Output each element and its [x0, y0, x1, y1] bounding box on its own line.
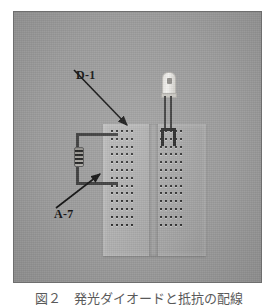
breadboard-hole[interactable]	[126, 146, 128, 148]
breadboard-hole[interactable]	[131, 161, 133, 163]
breadboard-hole[interactable]	[175, 224, 177, 226]
breadboard-hole[interactable]	[175, 169, 177, 171]
breadboard-hole[interactable]	[165, 146, 167, 148]
breadboard-hole[interactable]	[165, 185, 167, 187]
breadboard-hole[interactable]	[126, 224, 128, 226]
breadboard-hole[interactable]	[180, 224, 182, 226]
breadboard-hole[interactable]	[126, 169, 128, 171]
breadboard-hole[interactable]	[180, 216, 182, 218]
breadboard-hole[interactable]	[126, 161, 128, 163]
breadboard-hole[interactable]	[121, 224, 123, 226]
breadboard-hole[interactable]	[116, 224, 118, 226]
breadboard-hole[interactable]	[131, 138, 133, 140]
breadboard-hole[interactable]	[165, 192, 167, 194]
breadboard-hole[interactable]	[180, 130, 182, 132]
breadboard-hole[interactable]	[175, 208, 177, 210]
breadboard-hole[interactable]	[111, 224, 113, 226]
breadboard-hole[interactable]	[131, 130, 133, 132]
breadboard-hole[interactable]	[131, 200, 133, 202]
breadboard-hole[interactable]	[170, 192, 172, 194]
breadboard-hole[interactable]	[121, 146, 123, 148]
breadboard-hole[interactable]	[121, 185, 123, 187]
breadboard-hole[interactable]	[111, 216, 113, 218]
breadboard-hole[interactable]	[111, 200, 113, 202]
breadboard-hole[interactable]	[180, 208, 182, 210]
breadboard-hole[interactable]	[180, 153, 182, 155]
breadboard-hole[interactable]	[116, 208, 118, 210]
breadboard-hole[interactable]	[170, 161, 172, 163]
breadboard-hole[interactable]	[121, 177, 123, 179]
breadboard-hole[interactable]	[180, 138, 182, 140]
breadboard-hole[interactable]	[121, 216, 123, 218]
breadboard-hole[interactable]	[126, 153, 128, 155]
breadboard-hole[interactable]	[160, 200, 162, 202]
breadboard-hole[interactable]	[116, 200, 118, 202]
breadboard-hole[interactable]	[175, 177, 177, 179]
breadboard-hole[interactable]	[131, 146, 133, 148]
breadboard-hole[interactable]	[121, 192, 123, 194]
breadboard-hole[interactable]	[126, 216, 128, 218]
breadboard-hole[interactable]	[180, 185, 182, 187]
breadboard-hole[interactable]	[165, 200, 167, 202]
breadboard-hole[interactable]	[160, 153, 162, 155]
breadboard-hole[interactable]	[121, 169, 123, 171]
breadboard-hole[interactable]	[116, 130, 118, 132]
breadboard-hole[interactable]	[175, 185, 177, 187]
breadboard-hole[interactable]	[165, 153, 167, 155]
breadboard-hole[interactable]	[180, 169, 182, 171]
breadboard-hole[interactable]	[170, 146, 172, 148]
breadboard-hole[interactable]	[165, 208, 167, 210]
breadboard-hole[interactable]	[126, 208, 128, 210]
breadboard-hole[interactable]	[131, 169, 133, 171]
breadboard-hole[interactable]	[121, 161, 123, 163]
breadboard-hole[interactable]	[121, 138, 123, 140]
breadboard-hole[interactable]	[175, 216, 177, 218]
breadboard[interactable]	[103, 124, 206, 256]
breadboard-hole[interactable]	[160, 177, 162, 179]
breadboard-hole[interactable]	[180, 192, 182, 194]
breadboard-hole[interactable]	[126, 130, 128, 132]
breadboard-hole[interactable]	[111, 130, 113, 132]
resistor[interactable]	[76, 133, 118, 185]
breadboard-hole[interactable]	[131, 216, 133, 218]
breadboard-hole[interactable]	[165, 169, 167, 171]
breadboard-hole[interactable]	[175, 200, 177, 202]
breadboard-hole[interactable]	[175, 161, 177, 163]
breadboard-hole[interactable]	[175, 153, 177, 155]
breadboard-hole[interactable]	[121, 200, 123, 202]
breadboard-hole[interactable]	[170, 169, 172, 171]
breadboard-hole[interactable]	[131, 185, 133, 187]
breadboard-hole[interactable]	[160, 224, 162, 226]
breadboard-hole[interactable]	[160, 216, 162, 218]
breadboard-hole[interactable]	[160, 192, 162, 194]
breadboard-hole[interactable]	[116, 192, 118, 194]
breadboard-hole[interactable]	[180, 161, 182, 163]
breadboard-hole[interactable]	[131, 153, 133, 155]
breadboard-hole[interactable]	[170, 200, 172, 202]
breadboard-hole[interactable]	[126, 138, 128, 140]
breadboard-hole[interactable]	[111, 208, 113, 210]
breadboard-hole[interactable]	[170, 153, 172, 155]
breadboard-hole[interactable]	[131, 177, 133, 179]
breadboard-hole[interactable]	[126, 185, 128, 187]
breadboard-hole[interactable]	[170, 177, 172, 179]
breadboard-hole[interactable]	[180, 200, 182, 202]
breadboard-hole[interactable]	[170, 208, 172, 210]
breadboard-hole[interactable]	[121, 153, 123, 155]
breadboard-hole[interactable]	[111, 192, 113, 194]
breadboard-hole[interactable]	[116, 216, 118, 218]
breadboard-hole[interactable]	[121, 130, 123, 132]
breadboard-hole[interactable]	[170, 216, 172, 218]
breadboard-hole[interactable]	[165, 224, 167, 226]
breadboard-hole[interactable]	[175, 192, 177, 194]
breadboard-hole[interactable]	[170, 224, 172, 226]
led[interactable]	[160, 72, 176, 142]
breadboard-hole[interactable]	[131, 192, 133, 194]
breadboard-hole[interactable]	[160, 161, 162, 163]
breadboard-hole[interactable]	[180, 146, 182, 148]
breadboard-hole[interactable]	[165, 216, 167, 218]
breadboard-hole[interactable]	[180, 177, 182, 179]
breadboard-hole[interactable]	[126, 177, 128, 179]
breadboard-hole[interactable]	[126, 192, 128, 194]
breadboard-hole[interactable]	[126, 200, 128, 202]
